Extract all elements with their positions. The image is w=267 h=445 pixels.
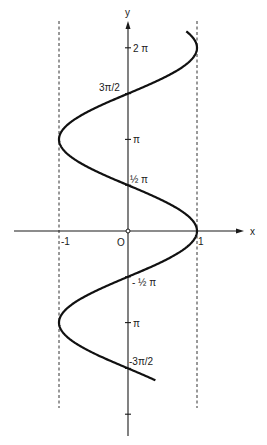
x-tick: 1 bbox=[198, 236, 204, 247]
x-tick-label: 1 bbox=[198, 236, 204, 247]
origin-label: O bbox=[117, 237, 125, 248]
y-tick-label: π bbox=[133, 134, 140, 145]
y-tick-label: ½ π bbox=[130, 174, 148, 185]
y-tick-label: -3π/2 bbox=[129, 356, 154, 367]
y-tick-label: 3π/2 bbox=[99, 82, 120, 93]
x-axis-arrow-icon bbox=[236, 229, 244, 234]
x-tick-label: -1 bbox=[61, 236, 70, 247]
x-ticks: -11 bbox=[61, 236, 204, 247]
chart: x y O -11 2 π3π/2π½ π- ½ ππ-3π/2 bbox=[0, 0, 267, 445]
x-tick: -1 bbox=[61, 236, 70, 247]
y-tick-label: π bbox=[133, 318, 140, 329]
y-tick-label: 2 π bbox=[133, 43, 148, 54]
x-axis-label: x bbox=[250, 226, 255, 237]
y-tick-label: - ½ π bbox=[132, 277, 156, 288]
origin-marker bbox=[126, 229, 130, 233]
y-axis-label: y bbox=[125, 7, 130, 18]
y-axis-arrow-icon bbox=[126, 21, 131, 29]
